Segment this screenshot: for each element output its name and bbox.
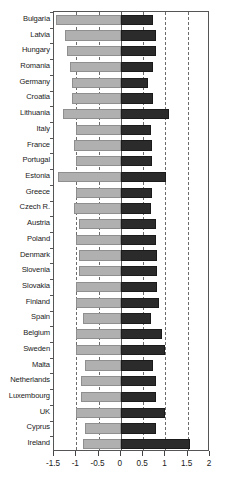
y-axis-tick: [50, 358, 54, 359]
category-label: Hungary: [0, 46, 50, 54]
bar-row: [54, 109, 208, 119]
category-label: Latvia: [0, 31, 50, 39]
y-axis-tick: [50, 263, 54, 264]
bar-negative: [76, 282, 121, 292]
bar-row: [54, 78, 208, 88]
y-axis-tick: [50, 279, 54, 280]
bar-row: [54, 360, 208, 370]
bar-row: [54, 250, 208, 260]
bar-row: [54, 62, 208, 72]
bar-positive: [121, 360, 153, 370]
y-axis-tick: [50, 12, 54, 13]
x-axis-tick: [98, 451, 99, 456]
bar-negative: [76, 408, 121, 418]
bar-negative: [56, 15, 121, 25]
y-axis-tick: [50, 201, 54, 202]
category-label: Germany: [0, 78, 50, 86]
x-axis-tick: [75, 451, 76, 456]
bar-positive: [121, 188, 152, 198]
category-label: Italy: [0, 125, 50, 133]
bar-negative: [63, 109, 121, 119]
bar-negative: [76, 235, 121, 245]
bar-negative: [58, 172, 120, 182]
bar-negative: [76, 298, 121, 308]
x-axis-tick-label: 0.5: [136, 459, 147, 469]
y-axis-tick: [50, 43, 54, 44]
category-label: Netherlands: [0, 376, 50, 384]
category-label: Estonia: [0, 172, 50, 180]
x-axis-tick: [209, 451, 210, 456]
bar-positive: [121, 30, 156, 40]
y-axis-tick: [50, 342, 54, 343]
bar-positive: [121, 140, 152, 150]
bar-negative: [76, 329, 121, 339]
bar-negative: [79, 266, 121, 276]
x-axis-tick: [120, 451, 121, 456]
bar-positive: [121, 266, 157, 276]
x-axis-tick: [142, 451, 143, 456]
bar-positive: [121, 235, 156, 245]
bar-negative: [65, 30, 121, 40]
bar-row: [54, 345, 208, 355]
x-axis-tick-label: 2: [207, 459, 212, 469]
category-axis-labels: BulgariaLatviaHungaryRomaniaGermanyCroat…: [0, 11, 50, 451]
bar-negative: [79, 250, 121, 260]
y-axis-tick: [50, 59, 54, 60]
bar-negative: [83, 313, 121, 323]
y-axis-tick: [50, 122, 54, 123]
y-axis-tick: [50, 185, 54, 186]
x-axis-tick-label: -1.5: [46, 459, 60, 469]
category-label: Luxembourg: [0, 392, 50, 400]
y-axis-tick: [50, 405, 54, 406]
category-label: Croatia: [0, 93, 50, 101]
category-label: Ireland: [0, 439, 50, 447]
bar-row: [54, 156, 208, 166]
bar-row: [54, 298, 208, 308]
bar-row: [54, 266, 208, 276]
bar-row: [54, 235, 208, 245]
x-axis-tick-labels: -1.5-1-0.500.511.52: [0, 459, 234, 473]
bar-positive: [121, 282, 158, 292]
bar-positive: [121, 172, 166, 182]
bar-positive: [121, 62, 153, 72]
bar-row: [54, 93, 208, 103]
bar-row: [54, 392, 208, 402]
bar-positive: [121, 392, 156, 402]
y-axis-tick: [50, 28, 54, 29]
bar-positive: [121, 109, 169, 119]
x-axis-tick-label: -0.5: [91, 459, 105, 469]
bar-negative: [76, 125, 121, 135]
bar-row: [54, 15, 208, 25]
bar-positive: [121, 93, 153, 103]
y-axis-tick: [50, 169, 54, 170]
bar-negative: [70, 62, 121, 72]
x-axis-tick-label: 1: [162, 459, 167, 469]
x-axis-ticks: [53, 451, 209, 457]
bar-positive: [121, 15, 153, 25]
y-axis-tick: [50, 232, 54, 233]
category-label: Denmark: [0, 251, 50, 259]
bar-row: [54, 30, 208, 40]
bar-row: [54, 376, 208, 386]
bar-negative: [85, 423, 121, 433]
bar-negative: [81, 376, 121, 386]
bar-negative: [74, 203, 121, 213]
category-label: Greece: [0, 188, 50, 196]
y-axis-tick: [50, 138, 54, 139]
bar-negative: [83, 439, 121, 449]
bar-row: [54, 282, 208, 292]
bar-negative: [76, 345, 121, 355]
category-label: Romania: [0, 62, 50, 70]
bar-positive: [121, 329, 162, 339]
x-axis-tick: [53, 451, 54, 456]
bar-positive: [121, 298, 159, 308]
category-label: Slovenia: [0, 266, 50, 274]
y-axis-tick: [50, 75, 54, 76]
bar-row: [54, 329, 208, 339]
bar-positive: [121, 376, 156, 386]
x-axis-tick-label: 1.5: [181, 459, 192, 469]
bar-row: [54, 439, 208, 449]
bar-positive: [121, 156, 152, 166]
bar-negative: [85, 360, 121, 370]
category-label: Austria: [0, 219, 50, 227]
